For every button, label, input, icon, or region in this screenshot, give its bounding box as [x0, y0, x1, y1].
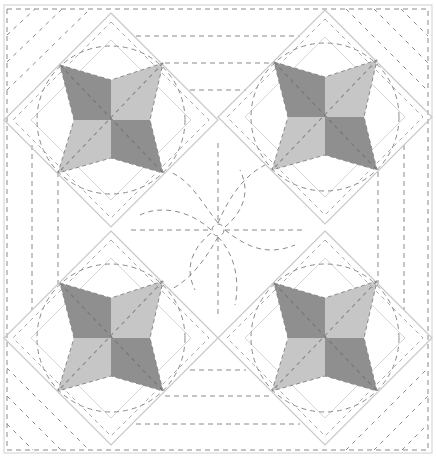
star-block-bottom-left	[4, 231, 218, 445]
star-block-bottom-right	[218, 231, 432, 445]
star-block-top-right	[218, 10, 432, 224]
star-block-top-left	[4, 13, 218, 227]
quilt-diagram	[0, 0, 436, 456]
